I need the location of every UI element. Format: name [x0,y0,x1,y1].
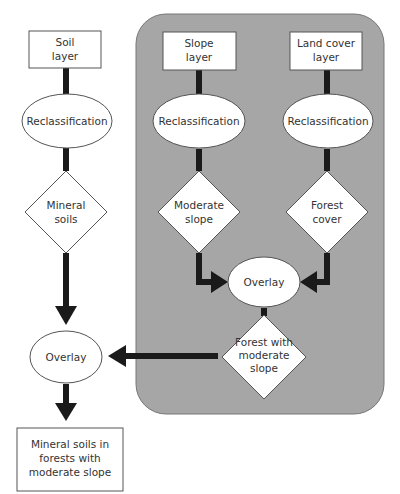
node-label: Moderate [174,199,224,211]
node-slope-reclassification: Reclassification [153,94,245,148]
node-left-overlay: Overlay [30,331,102,383]
node-result: Mineral soils in forests with moderate s… [17,428,123,491]
node-label: Reclassification [26,115,107,127]
arrowhead-mineral-to-overlay [55,306,77,325]
node-label: slope [185,213,213,225]
node-label: Reclassification [158,115,239,127]
node-label: Overlay [244,276,285,288]
node-land-cover-reclassification: Reclassification [283,94,373,148]
arrowhead-to-result [55,403,77,421]
node-soil-layer: Soil layer [29,31,101,68]
node-label: Land cover [297,37,356,49]
node-label: Mineral soils in [31,438,109,450]
node-label: moderate [238,349,289,361]
node-label: cover [312,213,342,225]
arrowhead-to-left-overlay [108,345,126,367]
node-label: layer [313,51,340,63]
node-label: moderate slope [29,466,111,478]
node-label: Overlay [46,351,87,363]
node-soil-reclassification: Reclassification [22,94,112,148]
node-label: Reclassification [287,115,368,127]
node-label: Mineral [47,199,86,211]
node-slope-layer: Slope layer [163,32,236,70]
node-label: layer [186,51,213,63]
node-center-overlay: Overlay [228,257,300,307]
node-land-cover-layer: Land cover layer [290,32,362,70]
node-label: Soil [56,36,75,48]
node-label: Slope [184,37,213,49]
gis-workflow-diagram: Soil layer Reclassification Mineral soil… [0,0,400,494]
node-label: Forest with [235,336,293,348]
node-label: layer [52,50,79,62]
node-label: Forest [311,199,343,211]
node-label: slope [250,362,278,374]
node-label: soils [54,213,77,225]
node-label: forests with [39,452,100,464]
node-mineral-soils: Mineral soils [25,171,107,253]
